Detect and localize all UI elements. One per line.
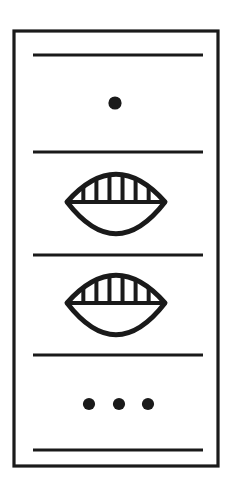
artboard-background xyxy=(0,0,249,481)
filled-dot xyxy=(142,398,154,410)
figure-canvas: Framed panel line drawing Rectangular ou… xyxy=(0,0,249,481)
register-single-dot xyxy=(108,96,121,109)
panel-drawing xyxy=(0,0,249,481)
filled-dot xyxy=(108,96,121,109)
filled-dot xyxy=(113,398,125,410)
filled-dot xyxy=(83,398,95,410)
